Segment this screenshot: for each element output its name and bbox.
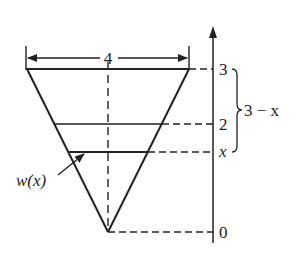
tick-label-x: x <box>218 142 227 161</box>
level-leaders <box>108 69 213 232</box>
brace-label: 3 − x <box>244 101 280 120</box>
axis-arrow-icon <box>209 26 217 38</box>
brace-icon <box>232 69 242 152</box>
triangle-tank <box>26 62 189 232</box>
tick-label-0: 0 <box>219 223 228 242</box>
tick-label-2: 2 <box>219 115 228 134</box>
vertical-axis <box>209 26 217 243</box>
tick-label-3: 3 <box>219 60 228 79</box>
width-function-label: w(x) <box>16 171 47 190</box>
tank-diagram: 4 3 2 x 0 3 − x w(x) <box>0 0 300 256</box>
